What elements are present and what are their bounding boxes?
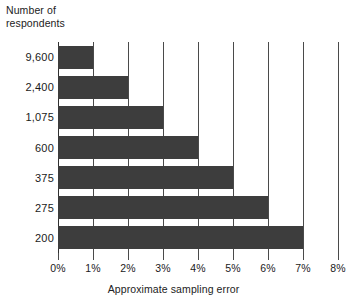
x-tick-3% xyxy=(163,253,164,260)
bar-row xyxy=(58,46,338,69)
gridline-8% xyxy=(338,42,339,253)
x-tick-1% xyxy=(93,253,94,260)
x-tick-label-0%: 0% xyxy=(43,262,73,275)
y-tick-label-375: 375 xyxy=(0,172,54,184)
bar-row xyxy=(58,106,338,129)
bar-600 xyxy=(58,136,198,159)
bar-row xyxy=(58,136,338,159)
x-axis-title: Approximate sampling error xyxy=(0,283,347,295)
x-tick-label-6%: 6% xyxy=(253,262,283,275)
y-tick-label-1075: 1,075 xyxy=(0,111,54,123)
x-tick-label-5%: 5% xyxy=(218,262,248,275)
y-tick-label-200: 200 xyxy=(0,232,54,244)
x-tick-2% xyxy=(128,253,129,260)
y-tick-label-600: 600 xyxy=(0,142,54,154)
x-tick-label-8%: 8% xyxy=(323,262,347,275)
x-axis-ticks xyxy=(58,253,338,261)
bar-275 xyxy=(58,196,268,219)
bar-200 xyxy=(58,226,303,249)
x-tick-label-4%: 4% xyxy=(183,262,213,275)
x-tick-6% xyxy=(268,253,269,260)
y-axis-title: Number of respondents xyxy=(6,4,65,30)
x-tick-7% xyxy=(303,253,304,260)
x-tick-4% xyxy=(198,253,199,260)
x-tick-label-2%: 2% xyxy=(113,262,143,275)
y-tick-label-9600: 9,600 xyxy=(0,51,54,63)
plot-area xyxy=(58,42,338,253)
bar-1075 xyxy=(58,106,163,129)
bar-series xyxy=(58,42,338,253)
bar-row xyxy=(58,76,338,99)
x-tick-label-3%: 3% xyxy=(148,262,178,275)
bar-row xyxy=(58,166,338,189)
x-tick-5% xyxy=(233,253,234,260)
sampling-error-bar-chart: Number of respondents 9,6002,4001,075600… xyxy=(0,0,347,306)
y-axis-tick-labels: 9,6002,4001,075600375275200 xyxy=(0,42,54,253)
x-tick-label-7%: 7% xyxy=(288,262,318,275)
bar-row xyxy=(58,196,338,219)
bar-9600 xyxy=(58,46,93,69)
y-tick-label-2400: 2,400 xyxy=(0,81,54,93)
x-tick-8% xyxy=(338,253,339,260)
x-tick-0% xyxy=(58,253,59,260)
bar-row xyxy=(58,226,338,249)
y-tick-label-275: 275 xyxy=(0,202,54,214)
x-tick-label-1%: 1% xyxy=(78,262,108,275)
bar-375 xyxy=(58,166,233,189)
bar-2400 xyxy=(58,76,128,99)
x-axis-tick-labels: 0%1%2%3%4%5%6%7%8% xyxy=(58,262,338,276)
